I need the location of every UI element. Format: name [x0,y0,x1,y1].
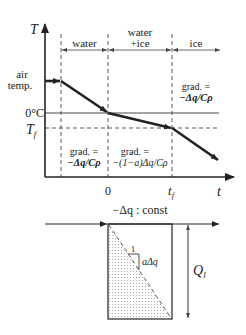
curve-ice [172,128,218,160]
grad-water-1: grad. = [70,146,99,157]
air-temp-label-2: temp. [8,79,33,91]
flux-title: −Δq : const [112,203,168,217]
grad-water-2: −Δq/Cρ [67,157,101,168]
phase-label-water-ice-2: +ice [130,37,149,49]
grad-water-ice-2: −(1−a)Δq/Cρ [112,157,167,169]
phase-label-ice: ice [190,37,203,49]
grad-ice-1: grad. = [182,81,211,92]
grad-ice-2: −Δq/Cρ [179,92,213,103]
curve-water-ice [108,113,171,128]
x-axis-label: t [217,184,222,199]
y-axis-label: T [30,22,39,37]
slope-rise-label: aΔq [142,256,158,267]
heat-flux-chart: −Δq : const 1 aΔq l Ql [45,203,219,319]
x-tick-zero: 0 [105,184,111,198]
grad-water-ice-1: grad. = [121,146,150,157]
slope-run-label: 1 [131,244,136,254]
temperature-chart: water water +ice ice T t air temp. 0°C T… [8,22,234,200]
freezing-diagram: water water +ice ice T t air temp. 0°C T… [0,0,246,335]
phase-label-water: water [72,37,97,49]
curve-water [61,81,107,112]
x-tick-tf: tf [168,183,176,200]
latent-heat-label-text: Ql [193,263,206,280]
zero-celsius-label: 0°C [25,106,44,120]
tf-label: Tf [26,122,38,139]
